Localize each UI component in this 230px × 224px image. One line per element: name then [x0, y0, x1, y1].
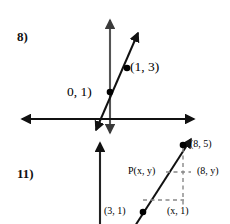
problem-11-label-point-8-5: (8, 5): [190, 138, 212, 149]
worksheet-figures: [0, 0, 230, 224]
problem-11-point-8-5: [180, 142, 187, 149]
problem-8-point-0-1: [107, 89, 114, 96]
problem-8-line: [96, 33, 138, 130]
problem-11-label-corner-8-y: (8, y): [197, 165, 219, 176]
problem-8-label-point-0-1: 0, 1): [67, 84, 92, 100]
problem-8-graph: [22, 20, 194, 133]
problem-8-number: 8): [17, 29, 28, 45]
worksheet-page: 8) (1, 3) 0, 1) 11) (8, 5) (8, y) P(x, y…: [0, 0, 230, 224]
problem-11-label-corner-x-1: (x, 1): [167, 205, 189, 216]
problem-8-label-point-1-3: (1, 3): [130, 59, 159, 75]
problem-11-point-3-1: [140, 209, 147, 216]
problem-11-label-point-p: P(x, y): [128, 165, 155, 176]
problem-11-label-point-3-1: (3, 1): [104, 205, 126, 216]
problem-11-number: 11): [17, 166, 34, 182]
